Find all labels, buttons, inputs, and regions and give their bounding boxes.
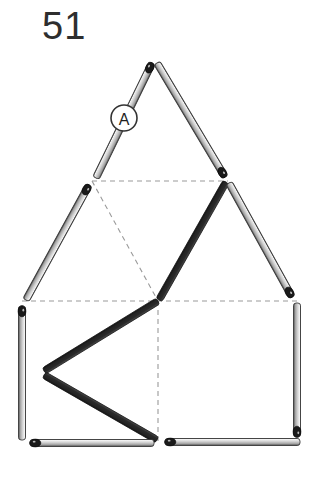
matchstick-body <box>156 180 229 301</box>
matchstick-apex-right-upper <box>154 61 229 179</box>
matchstick-left-vertical-side <box>18 306 26 440</box>
matchstick-chevron-lower-dark <box>42 372 158 443</box>
matchstick-body <box>226 181 295 298</box>
matchstick-head-highlight <box>168 440 171 442</box>
matchstick-chevron-upper-dark <box>42 298 160 374</box>
matchstick-body <box>42 298 160 374</box>
matchstick-body <box>42 372 158 443</box>
marker-a-label: A <box>119 111 130 128</box>
diagonal-guide <box>92 181 158 301</box>
matchstick-head-highlight <box>297 431 299 434</box>
dashed-guide-lines <box>22 181 297 441</box>
matchstick-body <box>154 61 228 179</box>
matchstick-body <box>23 183 92 301</box>
matchstick-left-outer-slope <box>23 183 93 302</box>
marker-a: A <box>111 105 137 131</box>
matchstick-bottom-right-horizontal <box>165 438 300 446</box>
matchstick-body <box>19 306 26 440</box>
matchstick-layer <box>18 61 301 447</box>
matchstick-head-highlight <box>22 309 24 312</box>
matchstick-body <box>165 439 300 446</box>
matchstick-bottom-left-horizontal <box>30 439 154 447</box>
matchstick-head-highlight <box>33 441 36 443</box>
matchstick-body <box>294 303 301 437</box>
matchstick-head <box>165 438 176 446</box>
matchstick-puzzle-figure: A <box>0 0 328 477</box>
matchstick-head <box>18 306 26 317</box>
matchstick-body <box>30 440 154 447</box>
matchstick-head <box>30 439 41 447</box>
matchstick-right-vertical-side <box>293 303 301 437</box>
matchstick-head <box>293 426 301 437</box>
matchstick-right-outer-slope <box>226 181 296 299</box>
matchstick-inner-left-dark-slope <box>156 180 229 301</box>
